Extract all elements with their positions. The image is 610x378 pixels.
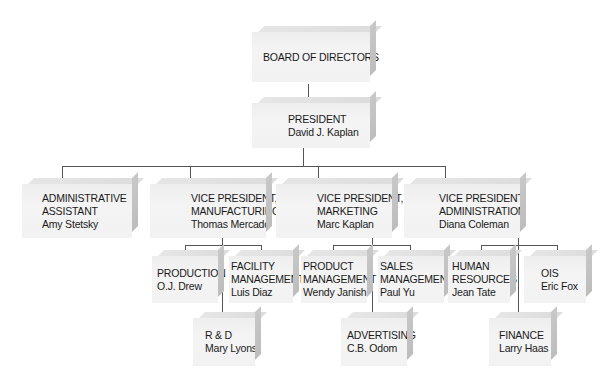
- node-vp-administration: VICE PRESIDENT, ADMINISTRATION Diana Col…: [404, 184, 520, 238]
- node-facility-management: FACILITY MANAGEMENT Luis Diaz: [229, 256, 293, 303]
- node-advertising: ADVERTISING C.B. Odom: [341, 318, 407, 366]
- connector-adm-bar: [481, 245, 557, 246]
- node-product-management: PRODUCT MANAGEMENT Wendy Janish: [301, 256, 367, 303]
- node-title: OIS: [541, 267, 586, 280]
- node-vp-marketing: VICE PRESIDENT, MARKETING Marc Kaplan: [276, 184, 392, 238]
- node-person: Mary Lyons: [205, 342, 255, 355]
- node-admin-assistant: ADMINISTRATIVE ASSISTANT Amy Stetsky: [22, 184, 132, 238]
- connector-vp-marketing: [318, 166, 319, 178]
- node-title: MANAGEMENT: [231, 273, 293, 286]
- connector-president-trunk: [303, 145, 304, 166]
- node-ois: OIS Eric Fox: [524, 256, 586, 303]
- node-title: VICE PRESIDENT,: [317, 192, 392, 205]
- node-person: David J. Kaplan: [288, 126, 370, 139]
- node-title: RESOURCES: [452, 273, 510, 286]
- node-title: ADVERTISING: [347, 329, 407, 342]
- node-title: ADMINISTRATION: [439, 205, 520, 218]
- node-person: Thomas Mercado: [191, 218, 266, 231]
- node-title: FACILITY: [231, 260, 293, 273]
- node-person: Eric Fox: [541, 280, 586, 293]
- node-title: FINANCE: [499, 329, 551, 342]
- node-title: R & D: [205, 329, 255, 342]
- node-title: PRESIDENT: [288, 113, 370, 126]
- node-human-resources: HUMAN RESOURCES Jean Tate: [448, 256, 510, 303]
- node-title: HUMAN: [452, 260, 510, 273]
- node-person: Luis Diaz: [231, 286, 293, 299]
- node-title: PRODUCT: [303, 260, 367, 273]
- connector-vp-administration: [445, 166, 446, 178]
- connector-board-president: [308, 84, 309, 98]
- node-person: Jean Tate: [452, 286, 510, 299]
- node-sales-management: SALES MANAGEMENT Paul Yu: [378, 256, 444, 303]
- node-person: Amy Stetsky: [42, 218, 132, 231]
- node-production: PRODUCTION O.J. Drew: [152, 256, 218, 303]
- node-person: Paul Yu: [380, 286, 444, 299]
- connector-admin-assistant: [62, 166, 63, 178]
- connector-vp-manufacturing: [190, 166, 191, 178]
- node-title: PRODUCTION: [157, 267, 218, 280]
- node-person: Wendy Janish: [303, 286, 367, 299]
- node-title: VICE PRESIDENT,: [191, 192, 266, 205]
- node-title: MANUFACTURING: [191, 205, 266, 218]
- node-person: O.J. Drew: [157, 280, 218, 293]
- node-title: MANAGEMENT: [303, 273, 367, 286]
- node-finance: FINANCE Larry Haas: [489, 318, 551, 366]
- node-president: PRESIDENT David J. Kaplan: [252, 103, 370, 148]
- node-board-of-directors: BOARD OF DIRECTORS: [252, 32, 370, 82]
- node-vp-manufacturing: VICE PRESIDENT, MANUFACTURING Thomas Mer…: [150, 184, 266, 238]
- node-title: ASSISTANT: [42, 205, 132, 218]
- node-title: ADMINISTRATIVE: [42, 192, 132, 205]
- node-title: MANAGEMENT: [380, 273, 444, 286]
- node-title: SALES: [380, 260, 444, 273]
- org-chart: BOARD OF DIRECTORS PRESIDENT David J. Ka…: [0, 0, 610, 378]
- node-person: Larry Haas: [499, 342, 551, 355]
- node-rnd: R & D Mary Lyons: [193, 318, 255, 366]
- node-person: Marc Kaplan: [317, 218, 392, 231]
- node-person: Diana Coleman: [439, 218, 520, 231]
- node-title: BOARD OF DIRECTORS: [263, 51, 370, 64]
- node-person: C.B. Odom: [347, 342, 407, 355]
- connector-level2-bar: [62, 166, 446, 167]
- node-title: VICE PRESIDENT,: [439, 192, 520, 205]
- node-title: MARKETING: [317, 205, 392, 218]
